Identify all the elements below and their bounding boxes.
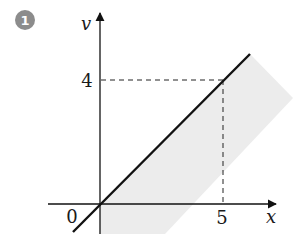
origin-label: 0 (66, 206, 77, 227)
badge-number: 1 (20, 13, 29, 28)
y-axis-label: v (81, 13, 91, 34)
figure: 1 v x 4 5 0 (0, 0, 301, 249)
x-tick-label: 5 (216, 207, 227, 228)
shaded-region (100, 54, 293, 234)
x-axis-label: x (266, 206, 276, 227)
y-tick-label: 4 (81, 70, 92, 91)
coordinate-plot: 1 v x 4 5 0 (0, 0, 301, 249)
question-number-badge: 1 (15, 10, 35, 30)
